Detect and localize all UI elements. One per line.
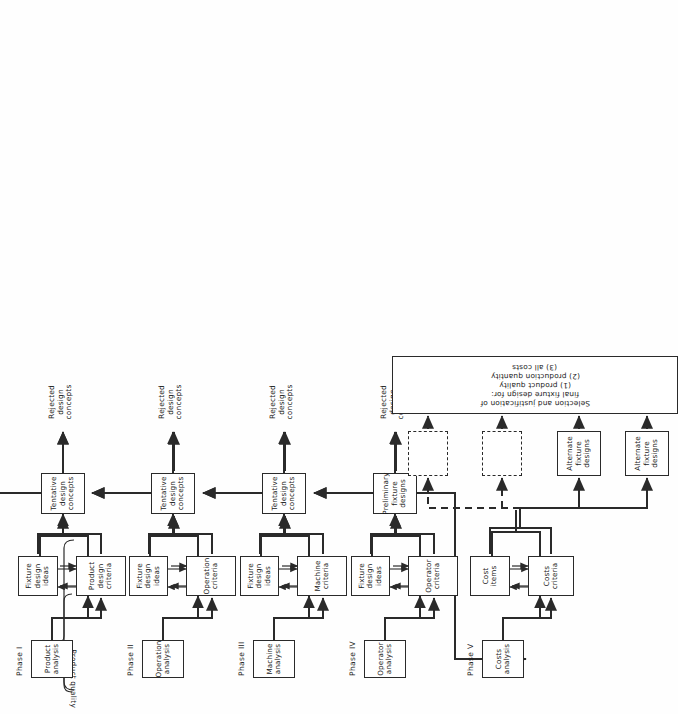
node-machine-criteria[interactable]: Machine criteria bbox=[297, 556, 347, 596]
node-fixture-design-ideas-3[interactable]: Fixture design ideas bbox=[240, 556, 279, 596]
node-costs-criteria[interactable]: Costs criteria bbox=[528, 556, 574, 596]
node-line: ideas bbox=[375, 566, 383, 586]
node-line: criteria bbox=[322, 563, 330, 590]
node-final-selection[interactable]: Selection and justification of final fix… bbox=[392, 356, 678, 414]
node-line: concepts bbox=[288, 477, 296, 511]
phase-label-phase5: Phase V bbox=[467, 644, 476, 676]
node-line: criteria bbox=[211, 563, 219, 590]
node-line: concepts bbox=[177, 477, 185, 511]
phase-label-phase3: Phase III bbox=[238, 641, 247, 676]
node-line: designs bbox=[651, 439, 659, 468]
node-fixture-design-ideas-2[interactable]: Fixture design ideas bbox=[129, 556, 168, 596]
label-line: concepts bbox=[65, 376, 74, 428]
label-rejected-3: Rejected design concepts bbox=[269, 376, 295, 428]
connector bbox=[428, 478, 520, 508]
node-line: analysis bbox=[503, 644, 511, 674]
node-line: analysis bbox=[52, 644, 60, 674]
node-operation-criteria[interactable]: Operation criteria bbox=[186, 556, 236, 596]
node-line: criteria bbox=[105, 563, 113, 590]
connector bbox=[520, 478, 647, 508]
phase-label-phase1: Phase I bbox=[16, 647, 25, 676]
label-line: concepts bbox=[286, 376, 295, 428]
node-line: final fixture design for: bbox=[491, 390, 579, 399]
node-cost-items[interactable]: Cost items bbox=[470, 556, 510, 596]
label-rejected-2: Rejected design concepts bbox=[158, 376, 184, 428]
label-rejected-1: Rejected design concepts bbox=[48, 376, 74, 428]
node-line: analysis bbox=[385, 644, 393, 674]
node-tentative-design-concepts-1[interactable]: Tentative design concepts bbox=[41, 473, 85, 514]
node-alternate-fixture-designs-1[interactable]: Alternate fixture designs bbox=[557, 431, 601, 476]
node-operator-analysis[interactable]: Operator analysis bbox=[364, 640, 406, 678]
node-line: (1) product quality bbox=[499, 381, 571, 390]
node-line: ideas bbox=[264, 566, 272, 586]
node-product-analysis[interactable]: Product analysis bbox=[31, 640, 73, 678]
node-line: (2) production quantity bbox=[490, 372, 579, 381]
node-line: concepts bbox=[67, 477, 75, 511]
node-tentative-design-concepts-3[interactable]: Tentative design concepts bbox=[262, 473, 306, 514]
node-line: Selection and justification of bbox=[480, 399, 590, 408]
node-line: (3) all costs bbox=[513, 363, 558, 372]
node-product-design-criteria[interactable]: Product design criteria bbox=[76, 556, 126, 596]
node-machine-analysis[interactable]: Machine analysis bbox=[253, 640, 295, 678]
node-line: criteria bbox=[433, 563, 441, 590]
connector bbox=[520, 478, 579, 508]
node-placeholder-2[interactable] bbox=[408, 431, 448, 476]
node-line: analysis bbox=[274, 644, 282, 674]
node-line: analysis bbox=[163, 644, 171, 674]
node-fixture-design-ideas-1[interactable]: Fixture design ideas bbox=[18, 556, 58, 596]
phase-label-phase2: Phase II bbox=[127, 644, 136, 676]
node-tentative-design-concepts-2[interactable]: Tentative design concepts bbox=[151, 473, 195, 514]
node-preliminary-fixture-designs[interactable]: Preliminary fixture designs bbox=[373, 473, 417, 514]
node-line: designs bbox=[583, 439, 591, 468]
phase-label-phase4: Phase IV bbox=[349, 641, 358, 676]
node-operation-analysis[interactable]: Operation analysis bbox=[142, 640, 184, 678]
node-operator-criteria[interactable]: Operator criteria bbox=[408, 556, 458, 596]
label-line: concepts bbox=[175, 376, 184, 428]
node-line: items bbox=[490, 566, 498, 587]
node-fixture-design-ideas-4[interactable]: Fixture design ideas bbox=[351, 556, 390, 596]
node-placeholder-1[interactable] bbox=[482, 431, 522, 476]
node-costs-analysis[interactable]: Costs analysis bbox=[482, 640, 524, 678]
node-line: ideas bbox=[42, 566, 50, 586]
node-line: criteria bbox=[551, 563, 559, 590]
node-line: designs bbox=[399, 479, 407, 508]
node-line: ideas bbox=[153, 566, 161, 586]
node-alternate-fixture-designs-2[interactable]: Alternate fixture designs bbox=[625, 431, 669, 476]
